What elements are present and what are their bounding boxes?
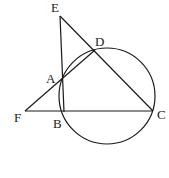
circle <box>59 48 155 144</box>
label-F: F <box>14 110 21 125</box>
label-E: E <box>51 0 59 15</box>
label-A: A <box>46 71 56 86</box>
segment-EB <box>60 16 64 112</box>
segment-FD <box>25 50 95 111</box>
label-D: D <box>95 34 104 49</box>
segment-EC <box>60 16 153 111</box>
geometry-diagram: E D A F B C <box>0 0 169 178</box>
label-C: C <box>157 107 166 122</box>
label-B: B <box>53 116 62 131</box>
